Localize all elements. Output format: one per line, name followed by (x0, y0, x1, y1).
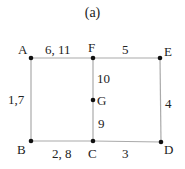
edge-label-A-F: 6, 11 (45, 43, 71, 56)
node-label-A: A (18, 43, 27, 56)
edge-label-F-E: 5 (122, 43, 129, 56)
node-F (91, 56, 96, 61)
edge-label-G-C: 9 (98, 117, 105, 130)
edge-E-D (160, 58, 161, 142)
node-label-F: F (88, 41, 95, 54)
node-G (91, 98, 96, 103)
edge-label-C-D: 3 (122, 147, 129, 160)
node-label-E: E (164, 45, 172, 58)
node-E (158, 56, 163, 61)
graph-canvas (0, 0, 185, 169)
edge-label-F-G: 10 (97, 72, 110, 85)
edge-label-E-D: 4 (165, 97, 172, 110)
node-label-B: B (17, 143, 26, 156)
node-label-D: D (164, 143, 173, 156)
edge-label-A-B: 1,7 (8, 93, 24, 106)
edge-label-B-C: 2, 8 (52, 147, 72, 160)
node-C (91, 139, 96, 144)
node-A (29, 56, 34, 61)
node-label-C: C (88, 147, 97, 160)
node-B (29, 139, 34, 144)
node-label-G: G (97, 94, 106, 107)
node-D (159, 140, 164, 145)
edge-C-D (93, 141, 161, 142)
